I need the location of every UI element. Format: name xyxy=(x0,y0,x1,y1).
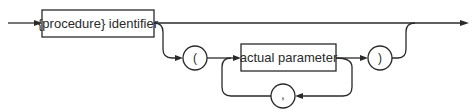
exit-arrow-icon xyxy=(460,20,469,26)
actual-parameter-label: actual parameter xyxy=(240,50,338,65)
close-paren-label: ) xyxy=(378,51,382,65)
open-paren-terminal: ( xyxy=(183,46,207,70)
open-paren-label: ( xyxy=(193,51,197,65)
close-paren-terminal: ) xyxy=(368,46,392,70)
procedure-statement-syntax-diagram: {procedure} identifier ( actual paramete… xyxy=(0,0,475,112)
procedure-identifier-box: {procedure} identifier xyxy=(38,10,159,37)
procedure-identifier-label: {procedure} identifier xyxy=(38,16,159,31)
close-paren-arrow-icon xyxy=(360,55,368,61)
comma-label: , xyxy=(281,88,284,102)
close-paren-to-exit-line xyxy=(392,23,415,58)
actual-parameter-box: actual parameter xyxy=(240,44,338,71)
comma-terminal: , xyxy=(271,84,295,108)
open-paren-arrow-icon xyxy=(175,55,183,61)
comma-arrow-icon xyxy=(295,93,303,99)
